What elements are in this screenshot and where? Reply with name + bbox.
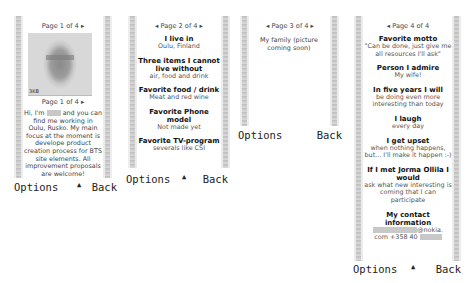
page-indicator[interactable]: Page 1 of 4 ▸ [26,22,100,30]
email-tld: com [374,233,388,241]
detail-value: be doing even more interesting than toda… [364,94,452,109]
options-softkey[interactable]: Options [353,263,397,275]
softkey-bar: Options ▲ Back [14,181,117,193]
photo-detail [46,55,74,60]
redacted-name [47,110,61,116]
right-border-decoration [330,16,339,126]
contact-line: com +358 40 [364,234,452,242]
left-border-decoration [128,16,137,168]
intro-text: Hi, I'm and you can find me working in O… [24,110,102,178]
right-border-decoration [452,16,461,261]
left-border-decoration [14,16,23,178]
email-domain: @nokia. [417,226,443,234]
right-border-decoration [221,16,230,168]
scroll-up-indicator: ▲ [182,173,186,181]
softkey-bar: Options ▲ Back [353,263,461,275]
left-border-decoration [354,16,363,261]
scroll-up-indicator: ▲ [77,181,81,189]
detail-value: severals like CSI [137,145,221,153]
detail-value: air, food and drink [137,73,221,81]
softkey-bar: Options Back [238,129,342,141]
detail-title: If I met Jorma Ollila I would [364,166,452,182]
profile-photo[interactable]: 3KB [28,33,92,96]
page-indicator[interactable]: ◂ Page 3 of 4 ▸ [250,22,330,30]
options-softkey[interactable]: Options [14,181,58,193]
profile-details: I live in Oulu, Finland Three items I ca… [137,30,221,153]
screen-page-1: Page 1 of 4 ▸ 3KB Page 1 of 4 ▸ Hi, I'm … [0,0,118,283]
detail-value: Oulu, Finland [137,43,221,51]
back-softkey[interactable]: Back [92,181,117,193]
redacted-email-user [373,227,417,233]
detail-title: Favorite Phone model [137,108,221,124]
page-indicator-secondary: Page 1 of 4 ▸ [26,98,100,106]
redacted-phone [420,234,442,240]
softkey-bar: Options ▲ Back [126,173,228,185]
options-softkey[interactable]: Options [238,129,282,141]
screen-page-4: ◂ Page 4 of 4 Favorite motto "Can be don… [348,0,469,283]
detail-value: when nothing happens, but... I'll make i… [364,145,452,160]
screen-page-2: ◂ Page 2 of 4 ▸ I live in Oulu, Finland … [118,0,232,283]
detail-value: Meat and red wine [137,94,221,102]
right-border-decoration [103,16,112,178]
page-indicator[interactable]: ◂ Page 4 of 4 [366,22,450,30]
phone-prefix[interactable]: +358 40 [390,233,418,241]
detail-value: every day [364,123,452,131]
profile-details: Favorite motto "Can be done, just give m… [364,30,452,242]
back-softkey[interactable]: Back [436,263,461,275]
detail-value: ask what new interesting is coming that … [364,182,452,205]
family-text: My family (picture coming soon) [256,37,322,52]
photo-size-label: 3KB [29,88,39,94]
screen-page-3: ◂ Page 3 of 4 ▸ My family (picture comin… [232,0,348,283]
back-softkey[interactable]: Back [203,173,228,185]
detail-value: "Can be done, just give me all resources… [364,43,452,58]
back-softkey[interactable]: Back [317,129,342,141]
page-indicator[interactable]: ◂ Page 2 of 4 ▸ [138,22,220,30]
detail-title: My contact information [364,211,452,227]
detail-value: My wife! [364,72,452,80]
detail-title: Three items I cannot live without [137,57,221,73]
scroll-up-indicator: ▲ [411,263,415,271]
detail-value: Not made yet [137,124,221,132]
options-softkey[interactable]: Options [126,173,170,185]
left-border-decoration [240,16,249,126]
intro-text-rest: and you can find me working in Oulu, Rus… [24,109,102,178]
